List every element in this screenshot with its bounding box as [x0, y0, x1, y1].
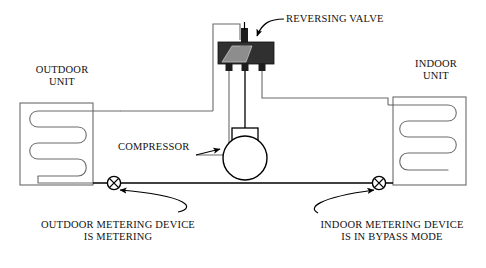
- indoor-metering-device-label: INDOOR METERING DEVICE IS IN BYPASS MODE: [300, 219, 484, 244]
- outdoor-unit-group: [20, 103, 120, 185]
- indoor-unit-label: INDOOR UNIT: [392, 58, 480, 83]
- outdoor-metering-device-label: OUTDOOR METERING DEVICE IS METERING: [2, 219, 234, 244]
- outdoor-metering-leader: [120, 190, 187, 212]
- reversing-valve-port-stub-2: [242, 63, 249, 71]
- indoor-metering-leader: [314, 190, 374, 213]
- valve-port3-indoor-pipe: [262, 68, 388, 105]
- compressor-shell: [223, 136, 267, 180]
- reversing-valve-port-stub-3: [259, 63, 266, 71]
- compressor-label: COMPRESSOR: [118, 141, 214, 153]
- reversing-valve-label: REVERSING VALVE: [286, 13, 436, 25]
- outdoor-coil-outlet-pipe: [38, 176, 93, 183]
- reversing-valve-pilot-stem: [241, 28, 248, 42]
- reversing-valve-port-stub-1: [226, 63, 233, 71]
- indoor-metering-device: [372, 176, 385, 189]
- diagram-canvas: OUTDOOR UNIT INDOOR UNIT REVERSING VALVE…: [0, 0, 486, 268]
- outdoor-metering-device: [107, 176, 120, 189]
- outdoor-unit-coil: [30, 111, 120, 176]
- reversing-valve-group: [218, 22, 274, 71]
- indoor-unit-group: [388, 97, 466, 185]
- outdoor-unit-label: OUTDOOR UNIT: [16, 64, 108, 89]
- indoor-unit-coil: [393, 105, 456, 170]
- reversing-valve-leader: [257, 19, 284, 36]
- compressor-group: [223, 128, 267, 180]
